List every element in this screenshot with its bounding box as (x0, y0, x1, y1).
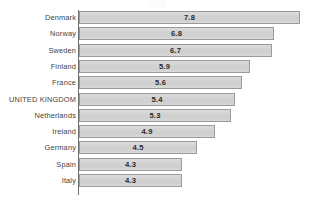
bar-value-label: 6.7 (79, 44, 272, 57)
bar-row: Italy4.3 (0, 174, 313, 187)
bar-row: Norway6.8 (0, 27, 313, 40)
bar-value-label: 4.3 (79, 174, 182, 187)
category-label-netherlands: Netherlands (34, 109, 76, 122)
bar-track: 4.9 (79, 125, 215, 138)
category-label-germany: Germany (45, 141, 76, 154)
category-label-denmark: Denmark (45, 11, 76, 24)
bar-track: 5.9 (79, 60, 250, 73)
plot-area: Denmark7.8Norway6.8Sweden6.7Finland5.9Fr… (0, 0, 313, 205)
bar-row: Sweden6.7 (0, 44, 313, 57)
bar-value-label: 6.8 (79, 27, 274, 40)
bar-track: 6.7 (79, 44, 272, 57)
bar-value-label: 4.5 (79, 141, 197, 154)
bar-row: Ireland4.9 (0, 125, 313, 138)
category-label-italy: Italy (62, 174, 76, 187)
bar-track: 4.3 (79, 158, 182, 171)
bar-row: Netherlands5.3 (0, 109, 313, 122)
bar-track: 4.5 (79, 141, 197, 154)
bar-row: Spain4.3 (0, 158, 313, 171)
category-label-ireland: Ireland (52, 125, 76, 138)
bar-row: Germany4.5 (0, 141, 313, 154)
category-label-sweden: Sweden (48, 44, 76, 57)
bar-track: 5.6 (79, 76, 242, 89)
bar-value-label: 7.8 (79, 11, 300, 24)
bar-row: Finland5.9 (0, 60, 313, 73)
bar-track: 5.3 (79, 109, 231, 122)
bar-track: 7.8 (79, 11, 300, 24)
category-label-united-kingdom: UNITED KINGDOM (9, 93, 76, 106)
bar-value-label: 5.9 (79, 60, 250, 73)
bar-row: Denmark7.8 (0, 11, 313, 24)
category-label-spain: Spain (56, 158, 76, 171)
bar-track: 4.3 (79, 174, 182, 187)
bar-row: France5.6 (0, 76, 313, 89)
bar-track: 5.4 (79, 93, 235, 106)
category-label-france: France (52, 76, 76, 89)
bar-track: 6.8 (79, 27, 274, 40)
bar-value-label: 5.6 (79, 76, 242, 89)
bar-value-label: 5.3 (79, 109, 231, 122)
bar-value-label: 4.3 (79, 158, 182, 171)
category-label-norway: Norway (50, 27, 76, 40)
bar-chart: Denmark7.8Norway6.8Sweden6.7Finland5.9Fr… (0, 0, 313, 205)
bar-row: UNITED KINGDOM5.4 (0, 93, 313, 106)
bar-value-label: 4.9 (79, 125, 215, 138)
bar-value-label: 5.4 (79, 93, 235, 106)
category-label-finland: Finland (51, 60, 76, 73)
